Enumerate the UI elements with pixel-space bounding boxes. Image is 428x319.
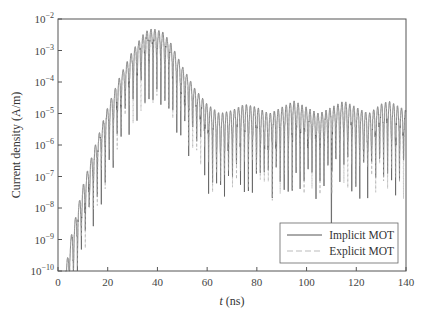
x-axis-label-unit: (ns) xyxy=(223,294,245,308)
x-axis-ticks: 020406080100120140 xyxy=(55,267,415,288)
x-tick-label: 140 xyxy=(398,276,415,288)
x-tick-label: 20 xyxy=(102,276,114,288)
x-tick-label: 100 xyxy=(298,276,315,288)
x-tick-label: 120 xyxy=(348,276,365,288)
x-tick-label: 40 xyxy=(152,276,164,288)
y-tick-label: 10−5 xyxy=(34,106,54,120)
y-tick-label: 10−7 xyxy=(34,169,54,183)
x-tick-label: 60 xyxy=(202,276,214,288)
y-tick-label: 10−10 xyxy=(30,263,54,277)
y-tick-label: 10−6 xyxy=(34,137,54,151)
x-tick-label: 80 xyxy=(251,276,263,288)
y-axis-label: Current density (A/m) xyxy=(9,92,23,199)
legend-label-explicit: Explicit MOT xyxy=(329,245,394,258)
y-tick-label: 10−3 xyxy=(34,43,54,57)
current-density-chart: 020406080100120140 10−210−310−410−510−61… xyxy=(0,0,428,319)
y-tick-label: 10−2 xyxy=(34,11,54,25)
legend: Implicit MOT Explicit MOT xyxy=(280,223,398,263)
y-axis-ticks: 10−210−310−410−510−610−710−810−910−10 xyxy=(30,11,62,277)
y-tick-label: 10−8 xyxy=(34,200,54,214)
y-tick-label: 10−4 xyxy=(34,74,54,88)
legend-label-implicit: Implicit MOT xyxy=(329,229,394,242)
x-tick-label: 0 xyxy=(55,276,61,288)
x-axis-label: t (ns) xyxy=(219,294,244,308)
y-tick-label: 10−9 xyxy=(34,232,54,246)
